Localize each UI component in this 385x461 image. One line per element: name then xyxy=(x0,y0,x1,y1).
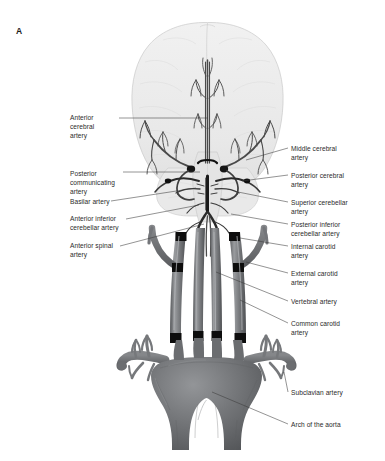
label-posterior-communicating-artery: Posterior communicating artery xyxy=(70,169,115,196)
label-vertebral-artery: Vertebral artery xyxy=(291,297,337,306)
label-internal-carotid-artery: Internal carotid artery xyxy=(291,242,335,260)
label-anterior-spinal-artery: Anterior spinal artery xyxy=(70,241,113,259)
label-basilar-artery: Basilar artery xyxy=(70,197,110,206)
label-subclavian-artery: Subclavian artery xyxy=(291,388,343,397)
label-common-carotid-artery: Common carotid artery xyxy=(291,319,340,337)
aortic-arch-region xyxy=(117,336,296,450)
label-arch-of-the-aorta: Arch of the aorta xyxy=(291,420,341,429)
cerebral-arterial-anatomy-figure: A xyxy=(0,0,385,461)
label-posterior-inferior-cerebellar-artery: Posterior inferior cerebellar artery xyxy=(291,220,340,238)
label-anterior-inferior-cerebellar-artery: Anterior inferior cerebellar artery xyxy=(70,214,119,232)
label-superior-cerebellar-artery: Superior cerebellar artery xyxy=(291,198,348,216)
label-anterior-cerebral-artery: Anterior cerebral artery xyxy=(70,113,94,140)
label-posterior-cerebral-artery: Posterior cerebral artery xyxy=(291,171,344,189)
label-external-carotid-artery: External carotid artery xyxy=(291,269,338,287)
label-middle-cerebral-artery: Middle cerebral artery xyxy=(291,144,337,162)
